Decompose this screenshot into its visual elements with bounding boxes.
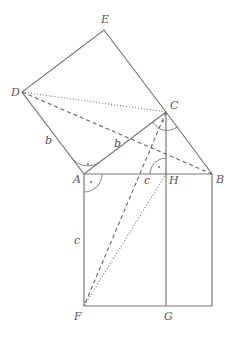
label-e: E bbox=[100, 13, 109, 26]
label-h: H bbox=[168, 174, 179, 187]
angle-marker-dot bbox=[90, 181, 92, 183]
label-g: G bbox=[164, 310, 173, 323]
square-on-ab bbox=[84, 174, 212, 306]
angle-arc-fab bbox=[84, 174, 102, 192]
label-side-c-top: c bbox=[144, 174, 150, 187]
label-side-b-diag: b bbox=[114, 137, 121, 150]
angle-marker-dot bbox=[158, 166, 160, 168]
label-side-b-left: b bbox=[45, 134, 52, 147]
dashed-line-db bbox=[22, 92, 212, 174]
label-f: F bbox=[73, 310, 82, 323]
dotted-line-hf bbox=[84, 174, 166, 306]
label-c: C bbox=[170, 99, 179, 112]
geometry-diagram: E D C A B H F G b b c c bbox=[0, 0, 234, 337]
label-a: A bbox=[72, 173, 81, 186]
label-d: D bbox=[10, 86, 20, 99]
side-cb bbox=[166, 112, 212, 174]
angle-marker-dot bbox=[87, 163, 89, 165]
angle-marker-dot bbox=[162, 120, 164, 122]
label-b: B bbox=[215, 173, 224, 186]
dashed-line-cf bbox=[84, 112, 166, 306]
angle-arc-acb bbox=[153, 122, 177, 130]
label-side-c-left: c bbox=[74, 234, 80, 247]
angle-arc-ahc bbox=[150, 158, 166, 174]
side-ac bbox=[84, 112, 166, 174]
dotted-line-dc bbox=[22, 92, 166, 112]
